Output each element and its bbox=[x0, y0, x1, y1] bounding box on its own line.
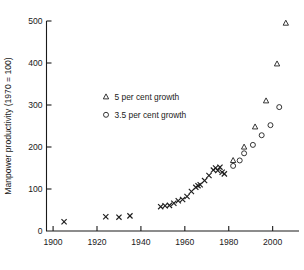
x-tick-label: 1900 bbox=[44, 237, 63, 247]
marker-triangle bbox=[263, 98, 268, 103]
series-3-5-per-cent-growth bbox=[231, 105, 282, 169]
marker-triangle bbox=[230, 158, 235, 163]
marker-circle bbox=[104, 112, 109, 117]
marker-circle bbox=[231, 163, 236, 168]
marker-circle bbox=[237, 158, 242, 163]
axis-lines bbox=[47, 21, 300, 231]
y-axis-title: Manpower productivity (1970 = 100) bbox=[3, 57, 13, 194]
marker-circle bbox=[277, 105, 282, 110]
legend: 5 per cent growth3.5 per cent growth bbox=[103, 92, 186, 120]
origin-label: 0 bbox=[38, 226, 43, 236]
x-tick-label: 1940 bbox=[131, 237, 150, 247]
scatter-chart: 1002003004005000190019201940196019802000… bbox=[0, 0, 304, 270]
marker-triangle bbox=[274, 61, 279, 66]
y-tick-label: 400 bbox=[28, 58, 43, 68]
legend-label: 5 per cent growth bbox=[115, 92, 180, 102]
series-5-per-cent-growth bbox=[230, 20, 288, 162]
marker-circle bbox=[250, 142, 255, 147]
x-tick-label: 1980 bbox=[219, 237, 238, 247]
x-tick-label: 2000 bbox=[263, 237, 282, 247]
x-tick-label: 1960 bbox=[175, 237, 194, 247]
y-tick-label: 500 bbox=[28, 16, 43, 26]
marker-circle bbox=[259, 133, 264, 138]
chart-container: 1002003004005000190019201940196019802000… bbox=[0, 0, 304, 270]
y-tick-label: 200 bbox=[28, 142, 43, 152]
y-tick-label: 300 bbox=[28, 100, 43, 110]
x-tick-label: 1920 bbox=[87, 237, 106, 247]
marker-triangle bbox=[241, 144, 246, 149]
marker-circle bbox=[268, 123, 273, 128]
series-historical bbox=[61, 165, 226, 225]
marker-triangle bbox=[103, 94, 108, 99]
marker-triangle bbox=[252, 124, 257, 129]
y-tick-label: 100 bbox=[28, 184, 43, 194]
marker-triangle bbox=[283, 20, 288, 25]
marker-circle bbox=[242, 151, 247, 156]
legend-label: 3.5 per cent growth bbox=[115, 110, 187, 120]
